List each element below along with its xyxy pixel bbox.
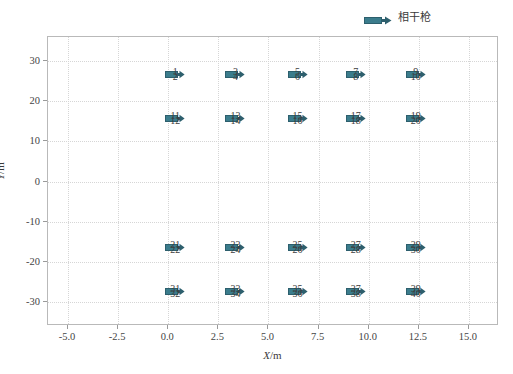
x-axis-unit: /m <box>270 349 282 361</box>
gridline-horizontal <box>48 222 497 223</box>
gridline-horizontal <box>48 61 497 62</box>
gridline-vertical <box>369 37 370 324</box>
marker-label-bottom: 20 <box>411 115 421 126</box>
marker-label-bottom: 34 <box>230 288 240 299</box>
gridline-horizontal <box>48 302 497 303</box>
x-tick-mark <box>217 325 218 329</box>
y-tick-label: -20 <box>4 255 40 266</box>
gridline-vertical <box>68 37 69 324</box>
x-tick-mark <box>167 325 168 329</box>
x-tick-mark <box>368 325 369 329</box>
y-tick-label: 30 <box>4 55 40 66</box>
y-tick-mark <box>43 100 47 101</box>
x-tick-mark <box>418 325 419 329</box>
gridline-vertical <box>218 37 219 324</box>
data-marker-group[interactable]: 3132 <box>165 282 185 300</box>
x-tick-mark <box>267 325 268 329</box>
marker-label-bottom: 40 <box>411 288 421 299</box>
y-tick-mark <box>43 261 47 262</box>
y-tick-mark <box>43 301 47 302</box>
x-tick-label: 10.0 <box>359 331 377 342</box>
data-marker-group[interactable]: 2324 <box>225 238 245 256</box>
y-axis-unit: /m <box>0 162 6 174</box>
data-marker-group[interactable]: 78 <box>346 65 366 83</box>
marker-label-bottom: 26 <box>293 244 303 255</box>
y-tick-mark <box>43 181 47 182</box>
gridline-horizontal <box>48 101 497 102</box>
x-tick-mark <box>67 325 68 329</box>
data-marker-group[interactable]: 1516 <box>288 109 308 127</box>
marker-label-bottom: 30 <box>411 244 421 255</box>
gridline-horizontal <box>48 262 497 263</box>
data-marker-group[interactable]: 2526 <box>288 238 308 256</box>
gridline-horizontal <box>48 141 497 142</box>
marker-label-bottom: 38 <box>351 288 361 299</box>
x-tick-mark <box>117 325 118 329</box>
marker-label-bottom: 18 <box>351 115 361 126</box>
marker-label-bottom: 16 <box>293 115 303 126</box>
marker-label-bottom: 22 <box>170 244 180 255</box>
data-marker-group[interactable]: 56 <box>288 65 308 83</box>
data-marker-group[interactable]: 1920 <box>406 109 426 127</box>
y-tick-mark <box>43 60 47 61</box>
data-marker-group[interactable]: 1112 <box>165 109 185 127</box>
marker-label-bottom: 6 <box>295 71 300 82</box>
chart-legend: 相干枪 <box>358 6 437 28</box>
plot-area <box>47 36 498 325</box>
data-marker-group[interactable]: 2930 <box>406 238 426 256</box>
marker-label-bottom: 28 <box>351 244 361 255</box>
y-tick-label: 20 <box>4 95 40 106</box>
gridline-horizontal <box>48 182 497 183</box>
y-tick-mark <box>43 140 47 141</box>
x-tick-mark <box>318 325 319 329</box>
data-marker-group[interactable]: 1718 <box>346 109 366 127</box>
y-tick-label: 0 <box>4 175 40 186</box>
marker-label-bottom: 2 <box>173 71 178 82</box>
coherent-gun-arrow-icon <box>364 12 392 23</box>
x-tick-label: -2.5 <box>109 331 126 342</box>
x-tick-label: -5.0 <box>59 331 76 342</box>
x-tick-label: 5.0 <box>261 331 274 342</box>
marker-label-bottom: 10 <box>411 71 421 82</box>
data-marker-group[interactable]: 12 <box>165 65 185 83</box>
y-tick-label: -30 <box>4 295 40 306</box>
data-marker-group[interactable]: 3536 <box>288 282 308 300</box>
x-tick-label: 15.0 <box>459 331 477 342</box>
marker-label-bottom: 8 <box>353 71 358 82</box>
data-marker-group[interactable]: 1314 <box>225 109 245 127</box>
x-tick-label: 0.0 <box>161 331 174 342</box>
x-tick-label: 7.5 <box>311 331 324 342</box>
y-tick-label: 10 <box>4 135 40 146</box>
y-tick-mark <box>43 221 47 222</box>
marker-label-bottom: 36 <box>293 288 303 299</box>
data-marker-group[interactable]: 3334 <box>225 282 245 300</box>
marker-label-bottom: 24 <box>230 244 240 255</box>
data-marker-group[interactable]: 2728 <box>346 238 366 256</box>
x-tick-label: 2.5 <box>211 331 224 342</box>
marker-label-bottom: 32 <box>170 288 180 299</box>
marker-label-bottom: 12 <box>170 115 180 126</box>
marker-label-bottom: 4 <box>233 71 238 82</box>
y-tick-label: -10 <box>4 215 40 226</box>
gridline-vertical <box>118 37 119 324</box>
marker-label-bottom: 14 <box>230 115 240 126</box>
x-tick-mark <box>468 325 469 329</box>
chart-figure: 相干枪 X/m Y/m -5.0-2.50.02.55.07.510.012.5… <box>0 0 513 374</box>
legend-label-coherent-gun: 相干枪 <box>398 12 431 23</box>
data-marker-group[interactable]: 34 <box>225 65 245 83</box>
data-marker-group[interactable]: 910 <box>406 65 426 83</box>
gridline-vertical <box>268 37 269 324</box>
gridline-vertical <box>319 37 320 324</box>
gridline-vertical <box>469 37 470 324</box>
x-axis-label: X/m <box>47 349 498 361</box>
x-tick-label: 12.5 <box>409 331 427 342</box>
data-marker-group[interactable]: 3738 <box>346 282 366 300</box>
data-marker-group[interactable]: 3940 <box>406 282 426 300</box>
data-marker-group[interactable]: 2122 <box>165 238 185 256</box>
